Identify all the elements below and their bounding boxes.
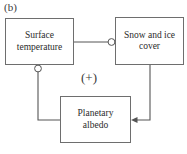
open-circle-marker-icon [108,39,115,46]
figure-panel-b: (b) Surface temperature Snow and ice cov… [0,0,187,154]
node-snow-ice-cover-label: Snow and ice cover [122,30,177,53]
node-surface-temperature: Surface temperature [5,18,74,65]
node-planetary-albedo: Planetary albedo [60,96,131,143]
link-snow-ice-cover-to-planetary-albedo [131,65,150,123]
node-snow-ice-cover: Snow and ice cover [115,17,184,65]
link-path [136,65,150,120]
node-surface-temperature-label: Surface temperature [15,30,64,53]
link-planetary-albedo-to-surface-temperature [35,65,60,120]
node-planetary-albedo-label: Planetary albedo [76,108,116,131]
arrowhead-icon [131,117,138,123]
open-circle-marker-icon [35,65,42,72]
feedback-sign-label: (+) [74,70,104,85]
link-path [38,72,60,120]
link-surface-temperature-to-snow-ice-cover [74,39,115,46]
